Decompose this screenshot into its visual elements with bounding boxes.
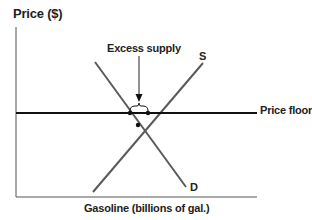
demand-label: D [190, 181, 198, 193]
excess-supply-label: Excess supply [107, 42, 181, 54]
y-axis-label: Price ($) [13, 6, 63, 21]
excess-supply-brace [130, 103, 148, 111]
demand-floor-point [128, 111, 132, 115]
price-floor-label: Price floor [260, 104, 312, 116]
x-axis-label: Gasoline (billions of gal.) [84, 202, 209, 214]
arrow-head-icon [136, 94, 143, 102]
equilibrium-point [136, 123, 140, 127]
demand-curve [95, 62, 186, 187]
supply-label: S [199, 50, 206, 62]
supply-floor-point [146, 111, 150, 115]
